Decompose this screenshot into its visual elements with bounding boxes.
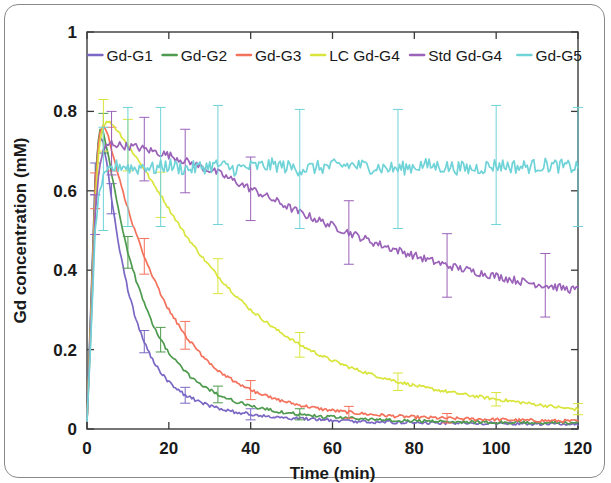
legend: Gd-G1Gd-G2Gd-G3LC Gd-G4Std Gd-G4Gd-G5 (88, 47, 582, 64)
legend-label: LC Gd-G4 (329, 47, 400, 64)
x-tick-label: 0 (82, 439, 91, 458)
error-bar (213, 259, 223, 294)
x-tick-label: 100 (482, 439, 510, 458)
y-tick-label: 0.8 (53, 102, 77, 121)
error-bar (295, 333, 305, 358)
series-group (87, 99, 583, 425)
x-tick-label: 40 (241, 439, 260, 458)
y-tick-label: 0 (68, 420, 77, 439)
error-bar (213, 386, 223, 403)
y-tick-label: 0.6 (53, 182, 77, 201)
legend-label: Gd-G1 (106, 47, 153, 64)
legend-item-gd-g5[interactable]: Gd-G5 (517, 47, 582, 64)
error-bar (180, 387, 190, 403)
error-bar (442, 234, 452, 298)
legend-item-gd-g3[interactable]: Gd-G3 (237, 47, 302, 64)
legend-label: Gd-G3 (255, 47, 302, 64)
series-lc-gd-g4 (87, 99, 583, 421)
error-bar (246, 409, 256, 420)
y-tick-label: 0.2 (53, 341, 77, 360)
x-tick-label: 120 (564, 439, 592, 458)
x-tick-label: 60 (323, 439, 342, 458)
error-bar (540, 254, 550, 318)
legend-item-std-gd-g4[interactable]: Std Gd-G4 (410, 47, 502, 64)
legend-label: Std Gd-G4 (428, 47, 502, 64)
legend-label: Gd-G2 (181, 47, 228, 64)
error-bar (180, 321, 190, 349)
y-axis-title: Gd concentration (mM) (11, 137, 30, 323)
x-axis-title: Time (min) (290, 464, 376, 483)
legend-item-gd-g1[interactable]: Gd-G1 (88, 47, 153, 64)
x-tick-label: 80 (405, 439, 424, 458)
chart-plot: 02040608010012000.20.40.60.81Time (min)G… (0, 0, 611, 483)
legend-item-lc-gd-g4[interactable]: LC Gd-G4 (311, 47, 400, 64)
y-tick-label: 0.4 (53, 261, 77, 280)
y-tick-label: 1 (68, 23, 77, 42)
legend-label: Gd-G5 (535, 47, 582, 64)
x-tick-label: 20 (159, 439, 178, 458)
legend-item-gd-g2[interactable]: Gd-G2 (163, 47, 228, 64)
figure-container: 02040608010012000.20.40.60.81Time (min)G… (0, 0, 611, 483)
